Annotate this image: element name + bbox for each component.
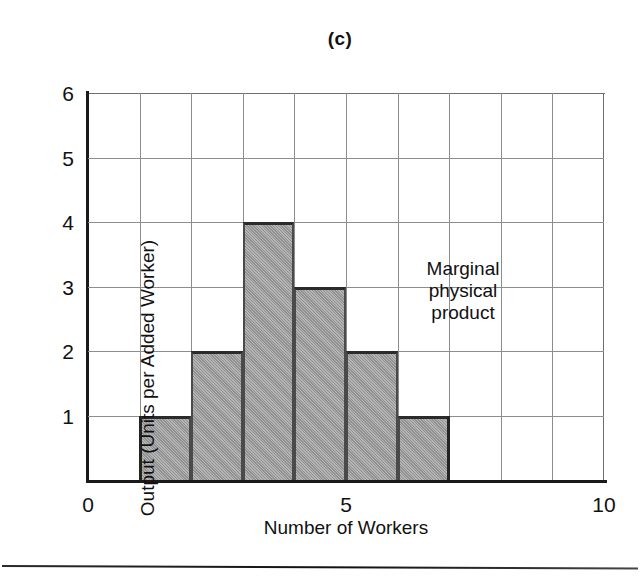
x-tick-label-0: 0: [58, 494, 118, 515]
annotation-line-1: Marginal: [398, 258, 528, 280]
y-tick-label-4: 4: [30, 212, 74, 233]
x-tick-label-5: 5: [316, 494, 376, 515]
x-tick-label-10: 10: [574, 494, 634, 515]
y-tick-label-3: 3: [30, 276, 74, 297]
bar-5: [346, 351, 398, 480]
x-axis-title: Number of Workers: [88, 517, 604, 539]
bar-6: [398, 416, 450, 481]
bar-4: [294, 287, 346, 481]
annotation-line-3: product: [398, 302, 528, 324]
annotation-marginal-physical-product: Marginal physical product: [398, 258, 528, 324]
panel-title: (c): [0, 28, 642, 50]
y-tick-label-2: 2: [30, 341, 74, 362]
bar-3: [243, 222, 295, 480]
y-tick-label-6: 6: [30, 83, 74, 104]
bar-outline-right: [447, 416, 450, 481]
annotation-line-2: physical: [398, 280, 528, 302]
y-tick-label-5: 5: [30, 147, 74, 168]
figure-panel-c: (c) 1: [0, 0, 642, 579]
y-tick-label-1: 1: [30, 405, 74, 426]
bar-2: [191, 351, 243, 480]
page-divider-rule: [2, 565, 638, 569]
x-axis-line: [86, 480, 607, 483]
